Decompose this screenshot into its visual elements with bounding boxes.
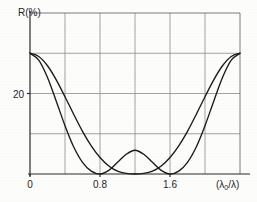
y-axis-title: R(%) [18, 7, 41, 18]
x-tick-label: 0.8 [93, 179, 107, 190]
chart-canvas: 00.81.6 20 R(%) (λ0/λ) [0, 0, 257, 202]
y-tick-labels: 20 [13, 89, 25, 100]
x-axis-title: (λ0/λ) [216, 179, 239, 191]
x-axis-title-tail: /λ) [228, 179, 239, 190]
x-tick-labels: 00.81.6 [27, 179, 177, 190]
y-tick-label: 20 [13, 89, 25, 100]
x-tick-label: 0 [27, 179, 33, 190]
reflectance-chart-figure: 00.81.6 20 R(%) (λ0/λ) [0, 0, 257, 202]
x-tick-label: 1.6 [163, 179, 177, 190]
x-axis-title-base: (λ [216, 179, 224, 190]
